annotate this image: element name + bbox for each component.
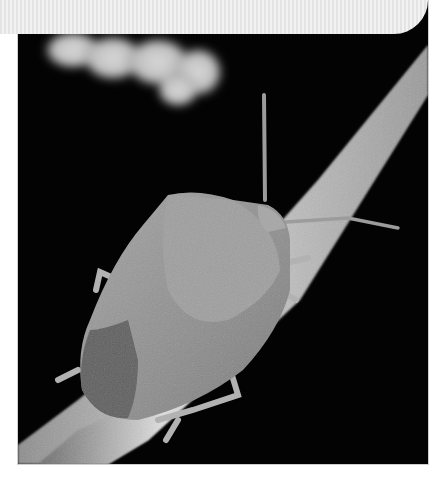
top-banner [0,0,428,34]
photo [18,0,428,464]
background-fluff [43,30,224,108]
shield-bug [80,192,290,420]
shield-bug-photo-illustration [18,0,428,464]
